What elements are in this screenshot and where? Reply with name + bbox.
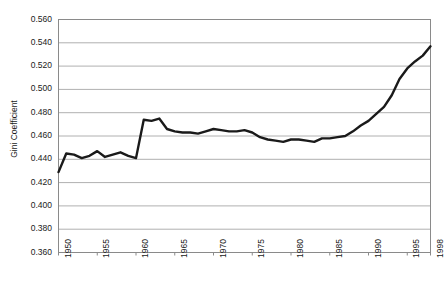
y-tick-label: 0.420 xyxy=(8,177,52,187)
x-tick-label: 1980 xyxy=(295,239,305,258)
x-tick-label: 1965 xyxy=(179,239,189,258)
x-tick-label: 1970 xyxy=(218,239,228,258)
x-tick-label: 1975 xyxy=(256,239,266,258)
gini-series-line xyxy=(59,46,431,172)
x-tick-label: 1995 xyxy=(411,239,421,258)
y-tick-label: 0.440 xyxy=(8,153,52,163)
x-tick-label: 1960 xyxy=(140,239,150,258)
y-tick-label: 0.500 xyxy=(8,83,52,93)
y-tick-label: 0.360 xyxy=(8,247,52,257)
y-tick-label: 0.460 xyxy=(8,130,52,140)
y-tick-label: 0.480 xyxy=(8,107,52,117)
y-tick-label: 0.400 xyxy=(8,200,52,210)
x-tick-label: 1998 xyxy=(435,239,445,258)
y-tick-label: 0.560 xyxy=(8,14,52,24)
y-tick-label: 0.520 xyxy=(8,60,52,70)
x-tick-label: 1955 xyxy=(101,239,111,258)
y-tick-label: 0.380 xyxy=(8,223,52,233)
gridlines xyxy=(59,20,431,253)
y-tick-label: 0.540 xyxy=(8,37,52,47)
x-tick-label: 1990 xyxy=(373,239,383,258)
x-tick-label: 1950 xyxy=(63,239,73,258)
x-tick-label: 1985 xyxy=(334,239,344,258)
